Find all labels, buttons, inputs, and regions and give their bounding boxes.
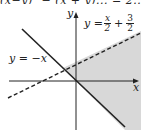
dashed-label-prefix: y = <box>84 17 103 30</box>
y-axis-label: y <box>67 7 73 20</box>
fraction-3-over-2: 3 2 <box>126 14 134 33</box>
solid-line-label: y = −x <box>9 52 47 65</box>
x-axis-label: x <box>133 81 139 94</box>
fraction-x-over-2: x 2 <box>104 14 111 33</box>
plus-sign: + <box>114 17 123 30</box>
y-axis-arrow-icon <box>74 12 79 18</box>
dashed-line-label: y = x 2 + 3 2 <box>84 14 135 33</box>
